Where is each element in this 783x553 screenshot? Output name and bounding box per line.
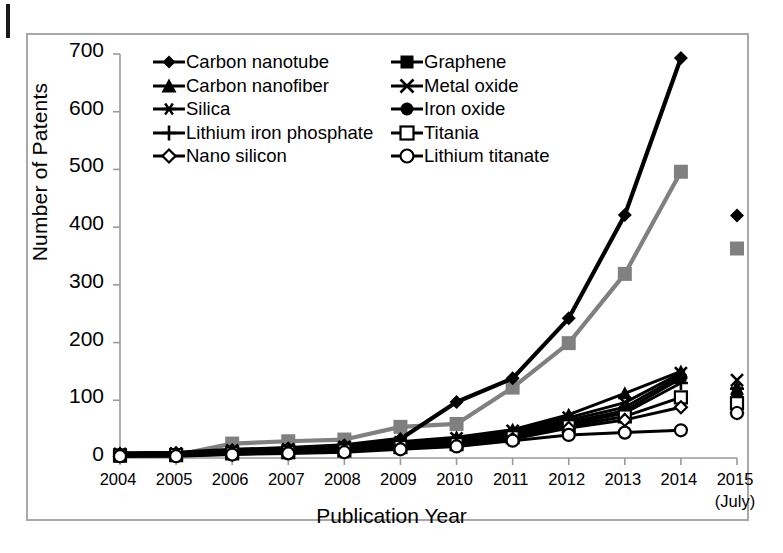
y-tick-700: 700 (34, 38, 104, 62)
datapoint-open-circle (170, 450, 182, 462)
datapoint-filled-square (401, 56, 414, 69)
legend-item-silica[interactable]: Silica (152, 97, 373, 121)
open-square-icon (390, 121, 424, 145)
legend-item-nano-silicon[interactable]: Nano silicon (152, 144, 373, 168)
datapoint-open-circle (394, 443, 406, 455)
legend-item-label: Lithium iron phosphate (186, 123, 373, 142)
cross-icon (390, 74, 424, 98)
asterisk-icon (152, 97, 186, 121)
datapoint-filled-square (674, 165, 688, 179)
series-graphene (113, 165, 744, 462)
datapoint-asterisk (163, 103, 176, 114)
y-tick-200: 200 (34, 327, 104, 351)
datapoint-open-circle (731, 407, 743, 419)
datapoint-filled-diamond (730, 209, 744, 223)
open-circle-icon (390, 144, 424, 168)
legend-item-label: Lithium titanate (424, 146, 549, 165)
datapoint-open-circle (338, 446, 350, 458)
datapoint-open-circle (563, 429, 575, 441)
legend-item-lithium-iron-phosphate[interactable]: Lithium iron phosphate (152, 121, 373, 145)
filled-square-icon (390, 50, 424, 74)
x-tick-2015: 2015 (700, 470, 770, 489)
legend-item-iron-oxide[interactable]: Iron oxide (390, 97, 549, 121)
datapoint-filled-circle (401, 103, 414, 116)
legend-item-label: Carbon nanotube (186, 52, 329, 71)
y-tick-100: 100 (34, 384, 104, 408)
y-tick-500: 500 (34, 153, 104, 177)
legend-item-carbon-nanofiber[interactable]: Carbon nanofiber (152, 74, 373, 98)
y-tick-0: 0 (34, 442, 104, 466)
legend-item-label: Graphene (424, 52, 506, 71)
x-axis-label: Publication Year (0, 504, 783, 528)
patent-trend-figure: Number of Patents Publication Year 01002… (0, 0, 783, 553)
legend-item-label: Nano silicon (186, 146, 287, 165)
datapoint-open-circle (226, 449, 238, 461)
legend-item-label: Carbon nanofiber (186, 76, 329, 95)
legend-item-graphene[interactable]: Graphene (390, 50, 549, 74)
datapoint-open-circle (401, 150, 414, 163)
datapoint-filled-square (393, 420, 407, 434)
legend-column-right: GrapheneMetal oxideIron oxideTitaniaLith… (390, 50, 549, 168)
chart-legend: Carbon nanotubeCarbon nanofiberSilicaLit… (152, 50, 552, 168)
x-tick-sublabel: (July) (700, 492, 770, 511)
plus-icon (152, 121, 186, 145)
datapoint-filled-square (618, 267, 632, 281)
legend-item-label: Silica (186, 99, 230, 118)
y-tick-400: 400 (34, 211, 104, 235)
filled-diamond-icon (152, 50, 186, 74)
filled-triangle-icon (152, 74, 186, 98)
datapoint-plus (162, 125, 177, 140)
open-diamond-icon (152, 144, 186, 168)
scan-artifact-mark (6, 4, 10, 38)
datapoint-open-circle (114, 450, 126, 462)
datapoint-filled-square (450, 417, 464, 431)
datapoint-open-diamond (163, 150, 176, 163)
datapoint-filled-diamond (674, 51, 688, 65)
datapoint-open-circle (507, 435, 519, 447)
datapoint-filled-diamond (163, 56, 176, 69)
legend-item-label: Metal oxide (424, 76, 519, 95)
legend-column-left: Carbon nanotubeCarbon nanofiberSilicaLit… (152, 50, 373, 168)
datapoint-open-circle (675, 424, 687, 436)
legend-item-label: Titania (424, 123, 479, 142)
legend-item-metal-oxide[interactable]: Metal oxide (390, 74, 549, 98)
datapoint-filled-square (562, 336, 576, 350)
legend-item-titania[interactable]: Titania (390, 121, 549, 145)
datapoint-open-square (401, 126, 414, 139)
datapoint-open-circle (619, 427, 631, 439)
y-tick-300: 300 (34, 269, 104, 293)
legend-item-lithium-titanate[interactable]: Lithium titanate (390, 144, 549, 168)
datapoint-filled-square (730, 241, 744, 255)
legend-item-label: Iron oxide (424, 99, 505, 118)
datapoint-open-circle (451, 440, 463, 452)
legend-item-carbon-nanotube[interactable]: Carbon nanotube (152, 50, 373, 74)
filled-circle-icon (390, 97, 424, 121)
datapoint-open-circle (282, 447, 294, 459)
y-tick-600: 600 (34, 96, 104, 120)
